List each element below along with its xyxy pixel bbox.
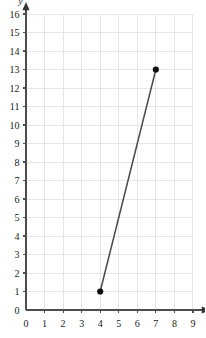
data-point-1: [153, 66, 159, 72]
x-tick-label-2: 2: [61, 318, 66, 329]
y-tick-label-6: 6: [15, 194, 20, 205]
y-tick-label-0: 0: [15, 305, 20, 316]
x-tick-label-8: 8: [172, 318, 177, 329]
x-tick-label-0: 0: [24, 318, 29, 329]
y-axis-arrowhead: [22, 2, 29, 10]
x-tick-label-3: 3: [79, 318, 84, 329]
x-tick-label-9: 9: [190, 318, 195, 329]
y-tick-label-4: 4: [15, 231, 20, 242]
y-tick-label-9: 9: [15, 138, 20, 149]
chart-canvas: 0123456789 012345678910111213141516 yx: [0, 0, 205, 338]
y-tick-label-11: 11: [10, 101, 20, 112]
data-point-0: [97, 288, 103, 294]
coordinate-plane-plot: 0123456789 012345678910111213141516 yx: [0, 0, 205, 338]
y-tick-label-12: 12: [10, 83, 20, 94]
y-tick-label-8: 8: [15, 157, 20, 168]
x-tick-label-6: 6: [135, 318, 140, 329]
y-tick-label-15: 15: [10, 27, 20, 38]
y-axis-tick-labels: 012345678910111213141516: [10, 9, 20, 316]
axis-name-labels: yx: [18, 0, 206, 326]
y-tick-label-5: 5: [15, 212, 20, 223]
x-tick-label-4: 4: [98, 318, 103, 329]
x-axis-arrowhead: [202, 306, 205, 313]
y-tick-label-13: 13: [10, 64, 20, 75]
y-tick-label-1: 1: [15, 286, 20, 297]
tick-marks: [23, 14, 193, 313]
axes: [22, 2, 205, 314]
y-tick-label-10: 10: [10, 120, 20, 131]
y-tick-label-2: 2: [15, 268, 20, 279]
x-tick-label-7: 7: [153, 318, 158, 329]
x-tick-label-5: 5: [116, 318, 121, 329]
horizontal-gridlines: [26, 14, 193, 310]
y-tick-label-7: 7: [15, 175, 20, 186]
y-tick-label-14: 14: [10, 46, 20, 57]
x-axis-tick-labels: 0123456789: [24, 318, 196, 329]
y-tick-label-3: 3: [15, 249, 20, 260]
x-tick-label-1: 1: [42, 318, 47, 329]
y-tick-label-16: 16: [10, 9, 20, 20]
y-axis-label: y: [18, 0, 23, 6]
